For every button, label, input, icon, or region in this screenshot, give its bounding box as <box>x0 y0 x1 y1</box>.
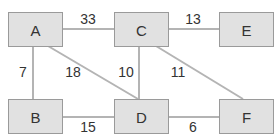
node-d: D <box>115 100 169 134</box>
edge-weight-a-d: 18 <box>65 64 81 80</box>
nodes-layer: ABCDEF <box>9 13 274 134</box>
node-c: C <box>115 13 169 47</box>
node-f: F <box>220 100 274 134</box>
node-label: B <box>30 109 40 126</box>
node-label: F <box>242 109 251 126</box>
edge-weight-c-e: 13 <box>185 11 201 27</box>
node-e: E <box>220 13 274 47</box>
edge-weight-b-d: 15 <box>80 119 96 135</box>
node-label: E <box>241 22 251 39</box>
weighted-graph-diagram: ABCDEF 33137181011156 <box>0 0 280 140</box>
edge-weight-a-c: 33 <box>80 11 96 27</box>
node-label: D <box>136 109 147 126</box>
edge-weight-a-b: 7 <box>19 64 27 80</box>
node-a: A <box>9 13 63 47</box>
edge-weight-d-f: 6 <box>189 119 197 135</box>
node-label: C <box>136 22 147 39</box>
edge-weight-c-d: 10 <box>118 64 134 80</box>
edge-weight-c-f: 11 <box>171 64 186 80</box>
node-b: B <box>9 100 63 134</box>
node-label: A <box>30 22 40 39</box>
edge-c-f <box>156 46 243 99</box>
